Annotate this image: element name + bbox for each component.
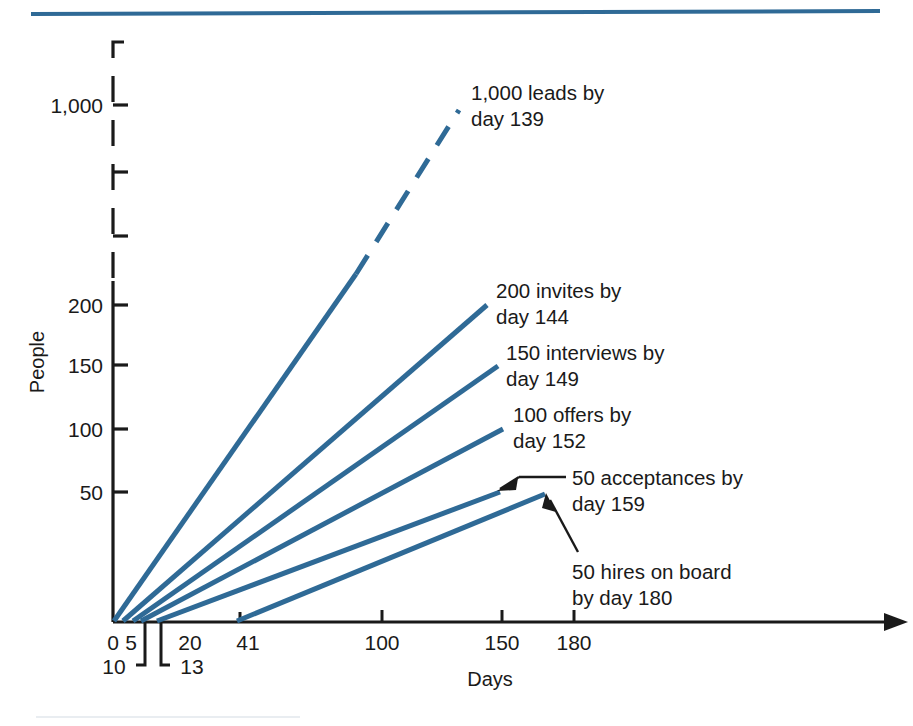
annotation-interviews-line1: 150 interviews by: [506, 341, 665, 364]
annotation-offers-line2: day 152: [513, 429, 586, 452]
annotation-acceptances-line1: 50 acceptances by: [572, 466, 744, 489]
x-tick-label-41: 41: [236, 631, 259, 654]
chart-page: 1,000 200 150 100 50 People 0 5 20 41 10…: [0, 0, 913, 726]
y-tick-label-100: 100: [68, 418, 103, 441]
x-axis-arrowhead: [884, 613, 908, 631]
y-tick-label-200: 200: [68, 294, 103, 317]
y-tick-label-150: 150: [68, 354, 103, 377]
annotation-hires-line1: 50 hires on board: [572, 560, 732, 583]
y-tick-label-1000: 1,000: [50, 94, 103, 117]
annotation-leads-line1: 1,000 leads by: [471, 81, 605, 104]
series-line-acceptances: [157, 492, 500, 621]
annotation-acceptances-line2: day 159: [572, 492, 645, 515]
annotation-interviews-line2: day 149: [506, 367, 579, 390]
y-tick-label-50: 50: [80, 481, 103, 504]
x-tick-label-13: 13: [180, 655, 203, 678]
annotation-invites-line1: 200 invites by: [496, 279, 622, 302]
x-tick-label-150: 150: [484, 631, 519, 654]
annotation-leads-line2: day 139: [471, 107, 544, 130]
series-line-interviews: [133, 366, 498, 621]
annotation-offers-line1: 100 offers by: [513, 403, 632, 426]
y-axis-top-hook: [113, 42, 124, 52]
x-tick-label-100: 100: [364, 631, 399, 654]
x-axis-title: Days: [467, 668, 513, 690]
series-line-offers: [141, 429, 503, 621]
series-line-invites: [123, 305, 487, 621]
x-tick-connector-13: [161, 622, 170, 665]
x-tick-label-5: 5: [125, 631, 137, 654]
x-tick-connector-10: [136, 622, 145, 665]
x-tick-label-10: 10: [102, 655, 125, 678]
series-line-leads-dashed: [356, 110, 459, 274]
annotation-hires-line2: by day 180: [572, 586, 672, 609]
x-tick-label-20: 20: [178, 631, 201, 654]
annotation-invites-line2: day 144: [496, 305, 569, 328]
x-tick-label-180: 180: [556, 631, 591, 654]
top-rule: [31, 11, 880, 14]
x-tick-label-0: 0: [107, 631, 119, 654]
recruiting-funnel-chart: 1,000 200 150 100 50 People 0 5 20 41 10…: [0, 0, 913, 726]
y-axis-title: People: [26, 331, 48, 393]
